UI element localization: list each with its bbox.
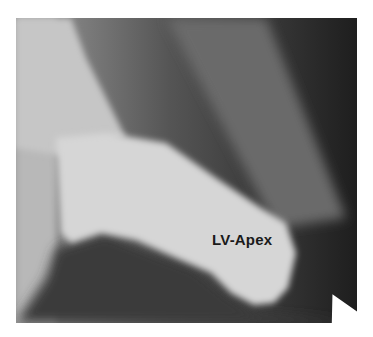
angiogram-image: LV-Apex — [16, 18, 357, 323]
lv-apex-label: LV-Apex — [212, 231, 272, 248]
